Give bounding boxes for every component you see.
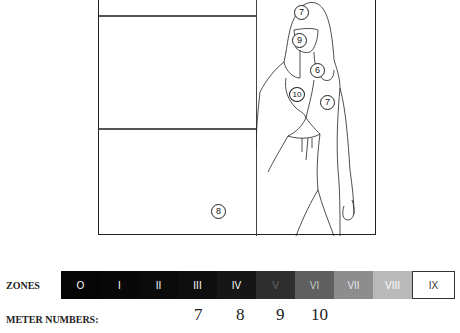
zone-label-left-panel: 8: [211, 204, 226, 219]
zone-label-arm: 7: [320, 95, 335, 110]
zone-label-hair-top: 7: [294, 5, 309, 20]
zone-8: VIII: [373, 271, 412, 299]
zone-1: I: [100, 271, 139, 299]
zone-label-chest: 10: [289, 87, 305, 102]
horizontal-line-middle: [99, 128, 256, 130]
meter-value-10: 10: [311, 305, 328, 325]
zone-label-hair-shoulder: 6: [310, 63, 325, 78]
meter-value-8: 8: [236, 305, 245, 325]
figure-illustration: [256, 0, 377, 236]
zone-2: II: [139, 271, 178, 299]
zone-3: III: [178, 271, 217, 299]
meter-value-7: 7: [194, 305, 203, 325]
zone-4: IV: [217, 271, 256, 299]
zone-0: O: [61, 271, 100, 299]
zone-6: VI: [295, 271, 334, 299]
zones-label: ZONES: [6, 280, 40, 291]
zone-label-face: 9: [292, 33, 307, 48]
meter-numbers-label: METER NUMBERS:: [6, 314, 99, 325]
zone-9: IX: [412, 271, 455, 299]
zone-7: VII: [334, 271, 373, 299]
zone-scale: O I II III IV V VI VII VIII IX: [61, 271, 455, 299]
zone-5: V: [256, 271, 295, 299]
meter-value-9: 9: [276, 305, 285, 325]
horizontal-line-top: [99, 15, 256, 17]
